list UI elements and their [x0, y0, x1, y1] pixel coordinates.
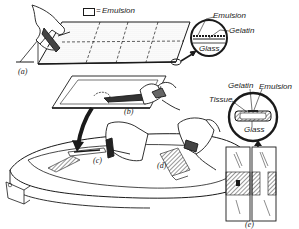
top-inset-emulsion-label: Emulsion: [213, 12, 246, 20]
bottom-inset-tissue-label: Tissue: [209, 96, 233, 104]
bottom-inset-gelatin-label: Gelatin: [228, 82, 253, 90]
panel-c-hand: [106, 122, 148, 161]
bottom-inset-glass-label: Glass: [244, 126, 264, 134]
panel-label-e: (e): [245, 221, 254, 229]
legend-label: Emulsion: [102, 7, 135, 15]
stripping-film-diagram: = Emulsion (a) (b) (c) (d) (e) Emulsion …: [0, 0, 299, 229]
panel-label-a: (a): [18, 68, 27, 76]
panel-label-b: (b): [124, 108, 133, 116]
bottom-inset-emulsion-label: Emulsion: [259, 83, 292, 91]
top-inset-glass-label: Glass: [199, 45, 219, 53]
panel-label-c: (c): [93, 157, 102, 165]
transfer-arrow: [72, 108, 92, 152]
panel-label-d: (d): [157, 162, 166, 170]
emulsion-legend-swatch: [83, 8, 95, 16]
legend-equals: =: [96, 7, 101, 15]
panel-e-slides: [226, 147, 276, 221]
top-inset-gelatin-label: Gelatin: [229, 27, 254, 35]
